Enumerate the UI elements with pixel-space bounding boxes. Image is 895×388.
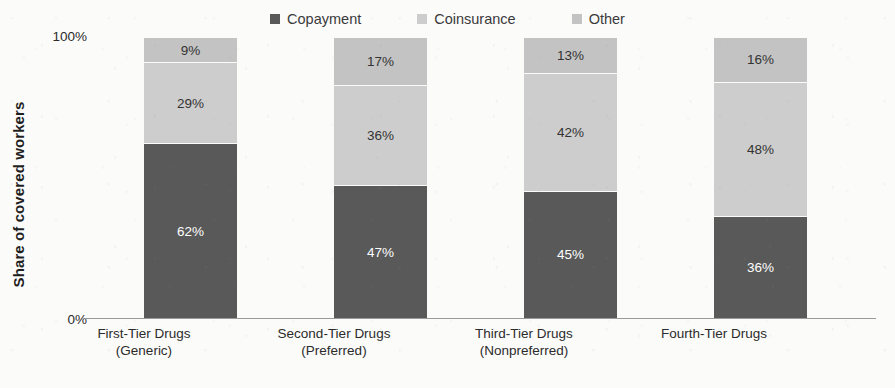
bar-group-second-tier[interactable]: 17% 36% 47% (334, 38, 427, 318)
x-category-label-second-tier: Second-Tier Drugs (Preferred) (239, 325, 429, 359)
bar-segment-copayment[interactable]: 62% (144, 144, 237, 318)
plot-area: 100% 0% 9% 29% 62% 17% 36% 47% 13% 42% 4… (96, 38, 876, 318)
square-swatch-icon (417, 14, 427, 24)
x-axis-line (86, 318, 876, 319)
stacked-bar-chart: Copayment Coinsurance Other Share of cov… (0, 0, 895, 388)
square-swatch-icon (270, 14, 280, 24)
y-axis-title-text: Share of covered workers (11, 101, 28, 287)
bar-segment-copayment[interactable]: 47% (334, 186, 427, 318)
y-tick-label-100: 100% (52, 29, 87, 44)
legend-item-coinsurance[interactable]: Coinsurance (417, 11, 515, 27)
legend-item-other[interactable]: Other (572, 11, 625, 27)
chart-legend: Copayment Coinsurance Other (0, 8, 895, 30)
legend-label-coinsurance: Coinsurance (434, 11, 515, 27)
legend-label-copayment: Copayment (287, 11, 361, 27)
bar-group-first-tier[interactable]: 9% 29% 62% (144, 38, 237, 318)
bar-segment-other[interactable]: 17% (334, 38, 427, 86)
x-category-line1: First-Tier Drugs (97, 326, 190, 341)
bar-segment-coinsurance[interactable]: 48% (714, 83, 807, 217)
x-category-label-third-tier: Third-Tier Drugs (Nonpreferred) (429, 325, 619, 359)
legend-item-copayment[interactable]: Copayment (270, 11, 361, 27)
bar-segment-other[interactable]: 16% (714, 38, 807, 83)
bar-segment-other[interactable]: 13% (524, 38, 617, 74)
bar-group-third-tier[interactable]: 13% 42% 45% (524, 38, 617, 318)
y-axis-title: Share of covered workers (6, 0, 32, 388)
x-category-line2: (Preferred) (239, 342, 429, 359)
bar-segment-coinsurance[interactable]: 42% (524, 74, 617, 192)
x-category-label-fourth-tier: Fourth-Tier Drugs (619, 325, 809, 342)
legend-label-other: Other (589, 11, 625, 27)
x-category-line1: Fourth-Tier Drugs (661, 326, 767, 341)
bar-segment-copayment[interactable]: 36% (714, 217, 807, 318)
x-category-line2: (Generic) (49, 342, 239, 359)
x-category-line1: Second-Tier Drugs (278, 326, 391, 341)
bar-segment-coinsurance[interactable]: 29% (144, 63, 237, 144)
square-swatch-icon (572, 14, 582, 24)
x-category-label-first-tier: First-Tier Drugs (Generic) (49, 325, 239, 359)
bar-segment-other[interactable]: 9% (144, 38, 237, 63)
x-category-line2: (Nonpreferred) (429, 342, 619, 359)
bar-segment-coinsurance[interactable]: 36% (334, 86, 427, 187)
bar-group-fourth-tier[interactable]: 16% 48% 36% (714, 38, 807, 318)
bar-segment-copayment[interactable]: 45% (524, 192, 617, 318)
x-category-line1: Third-Tier Drugs (475, 326, 573, 341)
